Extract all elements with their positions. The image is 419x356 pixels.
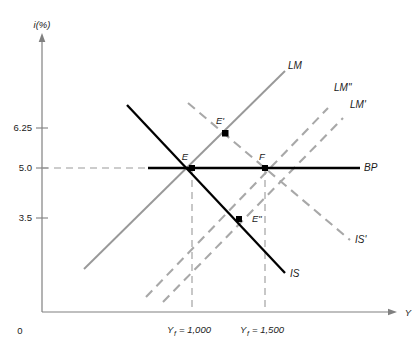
y-tick-label-3-5: 3.5 [19,212,32,223]
x-tick-label-yf-1500: Y f = 1,500 [240,324,285,337]
curve-label-bp: BP [364,162,378,173]
x-tick-label-yf-1000-value: = 1,000 [179,324,212,335]
is-lm-bp-diagram: 6.25 5.0 3.5 i(%) Y 0 Y f = 1,000 Y f = … [0,0,419,356]
curve-is [127,105,285,273]
x-axis-arrowhead [388,309,397,316]
curve-label-is: IS [290,268,300,279]
point-marker-E-prime [222,130,229,137]
point-label-E-prime: E' [216,115,225,126]
x-tick-label-yf-1500-Y: Y [240,324,247,335]
point-marker-E [189,165,195,171]
y-tick-label-6-25: 6.25 [14,122,33,133]
y-axis-arrowhead [39,33,46,42]
curve-label-lm-prime: LM' [350,99,367,110]
figure-canvas: 6.25 5.0 3.5 i(%) Y 0 Y f = 1,000 Y f = … [0,0,419,356]
curve-label-is-prime: IS' [355,234,367,245]
point-label-E-double-prime: E" [252,213,262,224]
curve-lm-double-prime [146,108,328,297]
curve-is-prime [188,103,350,240]
point-label-E: E [182,151,189,162]
x-tick-label-yf-1500-subscript: f [247,330,250,337]
x-tick-label-yf-1000-Y: Y [167,324,174,335]
point-label-F: F [259,151,266,162]
point-marker-F [262,165,268,171]
point-marker-E-double-prime [236,216,242,222]
axis-group [39,33,397,315]
point-marker-group [189,130,268,222]
x-tick-label-yf-1000-subscript: f [174,330,177,337]
x-tick-label-yf-1000: Y f = 1,000 [167,324,212,337]
curve-label-lm: LM [288,60,303,71]
dashed-curve-group [146,103,350,302]
x-axis-label: Y [405,307,412,318]
y-axis-label: i(%) [34,19,51,30]
y-tick-label-5-0: 5.0 [19,162,32,173]
curve-label-lm-double-prime: LM" [334,82,352,93]
origin-label: 0 [17,325,22,336]
x-tick-label-yf-1500-value: = 1,500 [252,324,285,335]
